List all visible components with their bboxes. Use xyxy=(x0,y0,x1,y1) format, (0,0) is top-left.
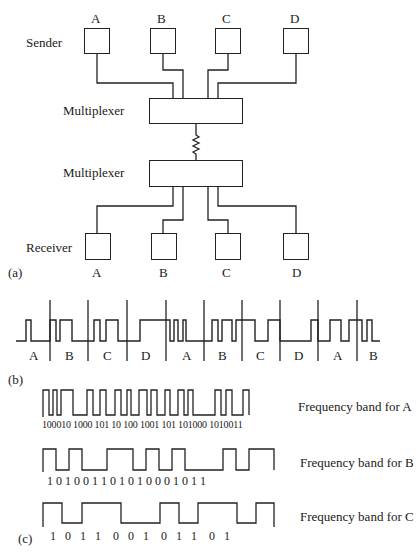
mux-bottom-label: Multiplexer xyxy=(63,166,124,179)
tdm-slot-label: A xyxy=(29,349,38,362)
receiver-box-d xyxy=(283,233,309,260)
sender-channel-a: A xyxy=(91,12,100,25)
connector-a-top xyxy=(97,54,173,98)
sender-box-b xyxy=(150,28,176,54)
tdm-slot-label: A xyxy=(333,349,342,362)
band-c-bits: 1 0 1 1 0 0 1 0 1 1 0 1 xyxy=(50,530,230,542)
diagram-lines xyxy=(0,0,420,554)
tdm-slot-label: D xyxy=(141,349,150,362)
mux-top-box xyxy=(149,98,243,124)
band-b-bits: 1 0 1 0 0 1 1 0 1 0 1 0 0 0 1 0 1 1 xyxy=(47,475,206,487)
band-b-label: Frequency band for B xyxy=(300,456,414,469)
caption-a: (a) xyxy=(8,266,22,279)
mux-top-label: Multiplexer xyxy=(63,104,124,117)
sender-channel-b: B xyxy=(157,12,166,25)
tdm-slot-label: B xyxy=(369,349,378,362)
receiver-box-a xyxy=(85,233,111,260)
sender-label: Sender xyxy=(26,36,62,49)
caption-c: (c) xyxy=(18,532,32,545)
tdm-slot-label: C xyxy=(103,349,112,362)
connector-d-bottom xyxy=(218,187,296,233)
caption-b: (b) xyxy=(8,373,23,386)
tdm-slot-label: A xyxy=(182,349,191,362)
sender-box-a xyxy=(84,28,110,54)
band-a-bits: 100010 1000 101 10 100 1001 101 101000 1… xyxy=(42,420,242,430)
connector-d-top xyxy=(218,54,296,98)
fdm-waveform-c xyxy=(43,503,274,527)
mux-bottom-box xyxy=(149,160,243,187)
tdm-slot-label: D xyxy=(294,349,303,362)
receiver-box-c xyxy=(215,233,241,260)
receiver-channel-d: D xyxy=(292,266,301,279)
connector-a-bottom xyxy=(97,187,173,233)
band-c-label: Frequency band for C xyxy=(300,510,414,523)
receiver-channel-b: B xyxy=(159,266,168,279)
sender-channel-d: D xyxy=(290,12,299,25)
fdm-waveform-b xyxy=(43,449,274,472)
tdm-slot-label: C xyxy=(256,349,265,362)
band-a-label: Frequency band for A xyxy=(298,400,412,413)
receiver-channel-a: A xyxy=(92,266,101,279)
receiver-label: Receiver xyxy=(26,241,72,254)
fdm-waveform-a xyxy=(43,390,249,417)
sender-box-c xyxy=(215,28,241,54)
tdm-waveform xyxy=(16,320,380,341)
tdm-slot-label: B xyxy=(65,349,74,362)
link-zigzag xyxy=(193,124,199,160)
receiver-box-b xyxy=(151,233,177,260)
receiver-channel-c: C xyxy=(222,266,231,279)
sender-channel-c: C xyxy=(222,12,231,25)
sender-box-d xyxy=(283,28,309,54)
tdm-slot-label: B xyxy=(218,349,227,362)
